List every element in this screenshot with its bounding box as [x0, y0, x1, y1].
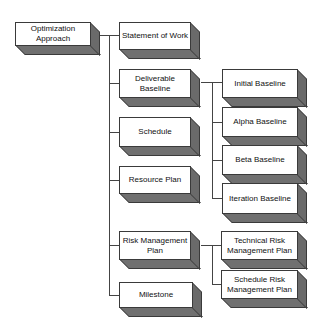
connector-resource — [109, 180, 119, 181]
box-bottom-shade — [119, 146, 201, 156]
node-label: Risk Management Plan — [119, 231, 191, 260]
node-label: Beta Baseline — [222, 145, 298, 175]
node-label: Alpha Baseline — [222, 107, 298, 137]
box-bottom-shade — [222, 213, 308, 223]
node-label: Schedule Risk Management Plan — [221, 270, 298, 299]
box-bottom-shade — [222, 97, 308, 107]
node-label: Optimization Approach — [15, 22, 91, 46]
connector-beta — [212, 160, 222, 161]
connector-iteration — [212, 198, 222, 199]
box-bottom-shade — [15, 45, 101, 55]
node-label: Resource Plan — [119, 166, 191, 194]
node-label: Statement of Work — [119, 22, 191, 50]
node-label: Iteration Baseline — [222, 183, 298, 214]
node-label: Deliverable Baseline — [119, 69, 191, 98]
connector-level2a-v — [212, 82, 213, 199]
box-bottom-shade — [119, 49, 201, 59]
box-bottom-shade — [119, 97, 201, 107]
connector-level1-v — [109, 35, 110, 296]
box-bottom-shade — [119, 259, 201, 269]
connector-risk-h — [201, 245, 221, 246]
node-label: Schedule — [119, 117, 191, 147]
box-bottom-shade — [119, 307, 203, 317]
node-label: Technical Risk Management Plan — [221, 231, 298, 260]
box-bottom-shade — [221, 259, 308, 269]
connector-alpha — [212, 122, 222, 123]
connector-schedule — [109, 132, 119, 133]
connector-level2b-v — [212, 245, 213, 285]
node-label: Initial Baseline — [222, 69, 298, 98]
connector-deliverable — [109, 83, 119, 84]
connector-risk — [109, 245, 119, 246]
box-bottom-shade — [221, 298, 308, 308]
connector-milestone — [109, 295, 119, 296]
connector-schedrisk — [212, 284, 221, 285]
box-bottom-shade — [119, 193, 201, 203]
node-label: Milestone — [119, 282, 193, 308]
